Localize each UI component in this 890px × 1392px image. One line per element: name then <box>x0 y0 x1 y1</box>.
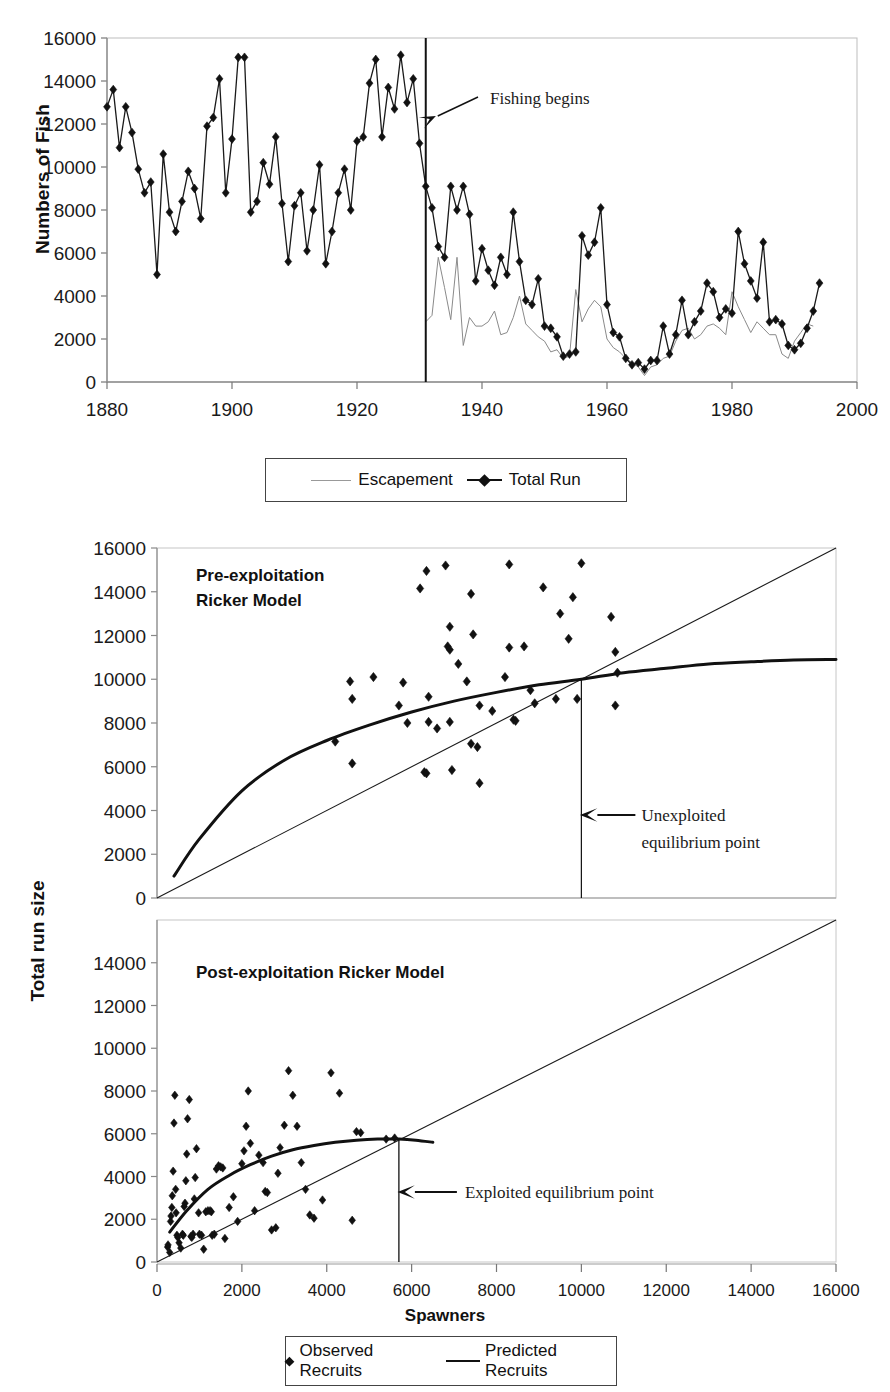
total-run-point <box>597 203 604 212</box>
x-tick-label: 8000 <box>478 1281 516 1300</box>
y-tick-label: 16000 <box>93 538 146 559</box>
total-run-point <box>404 98 411 107</box>
observed-recruit-point <box>243 1122 250 1130</box>
x-tick-label: 1900 <box>211 399 253 420</box>
thick-line-icon <box>446 1360 480 1362</box>
total-run-point <box>191 184 198 193</box>
y-tick-label: 12000 <box>93 996 146 1017</box>
total-run-point <box>741 259 748 268</box>
observed-recruit-point <box>170 1167 177 1175</box>
observed-recruit-point <box>552 694 559 703</box>
total-run-point <box>591 238 598 247</box>
total-run-point <box>416 139 423 148</box>
total-run-point <box>679 296 686 305</box>
legend-label-predicted-recruits: Predicted Recruits <box>485 1341 616 1381</box>
observed-recruit-point <box>277 1143 284 1151</box>
total-run-point <box>322 259 329 268</box>
total-run-point <box>135 165 142 174</box>
total-run-point <box>372 55 379 64</box>
total-run-point <box>104 102 111 111</box>
total-run-point <box>454 206 461 215</box>
total-run-point <box>654 356 661 365</box>
figure-root: Numbers of Fish 020004000600080001000012… <box>0 0 890 1392</box>
observed-recruit-point <box>183 1150 190 1158</box>
observed-recruit-point <box>226 1203 233 1211</box>
observed-recruit-point <box>172 1185 179 1193</box>
observed-recruits-points <box>332 559 621 788</box>
total-run-point <box>179 197 186 206</box>
observed-recruit-point <box>172 1091 179 1099</box>
legend-item-total-run: Total Run <box>467 470 581 490</box>
y-tick-label: 4000 <box>104 1167 146 1188</box>
observed-recruit-point <box>186 1095 193 1103</box>
y-tick-label: 4000 <box>54 286 96 307</box>
pre-exploitation-ricker-chart: 0200040006000800010000120001400016000Pre… <box>0 515 890 915</box>
total-run-point <box>510 208 517 217</box>
total-run-point <box>241 53 248 62</box>
line-diamond-icon <box>467 476 502 485</box>
observed-recruit-point <box>506 643 513 652</box>
total-run-point <box>272 133 279 142</box>
total-run-point <box>185 167 192 176</box>
observed-recruit-point <box>395 701 402 710</box>
total-run-point <box>335 188 342 197</box>
observed-recruit-point <box>476 779 483 788</box>
x-tick-label: 1920 <box>336 399 378 420</box>
observed-recruit-point <box>347 677 354 686</box>
observed-recruit-point <box>183 1177 190 1185</box>
y-tick-label: 4000 <box>104 801 146 822</box>
observed-recruit-point <box>241 1147 248 1155</box>
legend-label-total-run: Total Run <box>509 470 581 490</box>
observed-recruit-point <box>612 701 619 710</box>
x-tick-label: 1960 <box>586 399 628 420</box>
x-tick-label: 2000 <box>223 1281 261 1300</box>
fishing-begins-arrow-line <box>438 97 478 116</box>
total-run-point <box>585 251 592 260</box>
total-run-point <box>660 322 667 331</box>
pre-exploitation-svg: 0200040006000800010000120001400016000Pre… <box>0 515 890 915</box>
observed-recruit-point <box>169 1203 176 1211</box>
timeseries-legend: Escapement Total Run <box>265 458 625 500</box>
total-run-point <box>154 270 161 279</box>
observed-recruit-point <box>328 1069 335 1077</box>
x-tick-label: 16000 <box>812 1281 859 1300</box>
observed-recruit-point <box>612 647 619 656</box>
total-run-point <box>579 231 586 240</box>
total-run-point <box>291 201 298 210</box>
total-run-point <box>285 257 292 266</box>
total-run-point <box>485 266 492 275</box>
total-run-point <box>279 199 286 208</box>
observed-recruit-point <box>281 1121 288 1129</box>
total-run-point <box>172 227 179 236</box>
legend-label-observed-recruits: Observed Recruits <box>300 1341 433 1381</box>
observed-recruit-point <box>400 678 407 687</box>
x-tick-label: 1940 <box>461 399 503 420</box>
x-tick-label: 12000 <box>643 1281 690 1300</box>
total-run-point <box>472 277 479 286</box>
total-run-point <box>810 307 817 316</box>
total-run-point <box>397 51 404 60</box>
observed-recruit-point <box>448 765 455 774</box>
chart-title-line: Post-exploitation Ricker Model <box>196 963 444 982</box>
observed-recruit-point <box>578 559 585 568</box>
observed-recruit-point <box>222 1234 229 1242</box>
total-run-point <box>222 188 229 197</box>
observed-recruit-point <box>298 1158 305 1166</box>
timeseries-chart: Numbers of Fish 020004000600080001000012… <box>0 0 890 450</box>
total-run-point <box>385 83 392 92</box>
equilibrium-arrow-head-icon <box>580 808 597 821</box>
observed-recruit-point <box>285 1066 292 1074</box>
total-run-point <box>522 296 529 305</box>
chart-title-line: Ricker Model <box>196 591 302 610</box>
x-tick-label: 10000 <box>558 1281 605 1300</box>
total-run-point <box>297 188 304 197</box>
observed-recruit-point <box>195 1209 202 1217</box>
total-run-point <box>354 137 361 146</box>
observed-recruit-point <box>336 1089 343 1097</box>
total-run-point <box>504 270 511 279</box>
observed-recruit-point <box>455 659 462 668</box>
observed-recruit-point <box>520 642 527 651</box>
fishing-begins-label: Fishing begins <box>490 89 590 108</box>
total-run-point <box>235 53 242 62</box>
total-run-point <box>785 341 792 350</box>
